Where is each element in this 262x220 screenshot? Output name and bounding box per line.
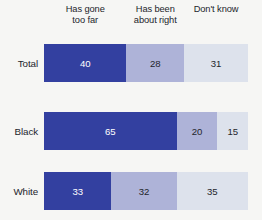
bar-segment-dont-know: 15 xyxy=(217,112,248,150)
bar-segment-dont-know: 35 xyxy=(177,172,248,210)
legend-item-has-gone-too-far: Has gone too far xyxy=(53,4,117,26)
bar-segment-has-been-about-right: 28 xyxy=(126,44,184,82)
row-label-black: Black xyxy=(0,112,38,150)
bar-row-white: White 33 32 35 xyxy=(0,172,262,210)
stacked-bar-chart: Has gone too far Has been about right Do… xyxy=(0,0,262,220)
bar-row-total: Total 40 28 31 xyxy=(0,44,262,82)
legend-label-line2: about right xyxy=(123,15,187,26)
row-label-total: Total xyxy=(0,44,38,82)
legend-label-line1: Has gone xyxy=(66,4,105,14)
bar-track-black: 65 20 15 xyxy=(44,112,248,150)
bar-track-total: 40 28 31 xyxy=(44,44,248,82)
bar-segment-has-gone-too-far: 33 xyxy=(44,172,111,210)
legend-item-dont-know: Don't know xyxy=(184,4,248,15)
bar-track-white: 33 32 35 xyxy=(44,172,248,210)
bar-segment-has-gone-too-far: 65 xyxy=(44,112,177,150)
legend-label-line1: Has been xyxy=(136,4,175,14)
bar-segment-has-gone-too-far: 40 xyxy=(44,44,126,82)
bar-segment-has-been-about-right: 32 xyxy=(111,172,176,210)
legend-item-has-been-about-right: Has been about right xyxy=(123,4,187,26)
row-label-white: White xyxy=(0,172,38,210)
bar-segment-has-been-about-right: 20 xyxy=(177,112,218,150)
legend-label-line2: too far xyxy=(53,15,117,26)
chart-legend: Has gone too far Has been about right Do… xyxy=(44,4,248,36)
bar-segment-dont-know: 31 xyxy=(184,44,248,82)
legend-label-line1: Don't know xyxy=(194,4,239,14)
bar-row-black: Black 65 20 15 xyxy=(0,112,262,150)
